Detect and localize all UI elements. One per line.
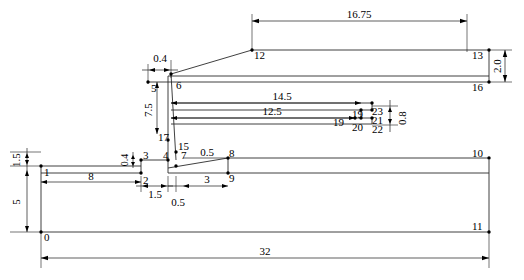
dimension-0-5-upper: 0.5 <box>183 146 228 158</box>
drawing-canvas: 16.75 2.0 0.4 7.5 14.5 12.5 <box>0 0 524 280</box>
vertex-label-0: 0 <box>44 231 50 243</box>
dimension-0-4-top: 0.4 <box>142 52 178 84</box>
dimension-16-75: 16.75 <box>252 8 467 52</box>
dimension-32: 32 <box>41 232 489 268</box>
dim-label-14-5: 14.5 <box>272 90 292 102</box>
dimension-1-5-lower: 1.5 <box>136 176 173 200</box>
part-outline <box>41 50 489 232</box>
vertex-label-16: 16 <box>472 81 484 93</box>
dim-label-2-0: 2.0 <box>491 59 503 73</box>
vertex-label-10: 10 <box>472 147 484 159</box>
vertex-label-15: 15 <box>178 140 190 152</box>
vertex-label-22: 22 <box>372 123 383 135</box>
dim-label-1-5-left: 1.5 <box>10 153 22 167</box>
vertex-label-13: 13 <box>472 49 484 61</box>
dim-label-0-4-top: 0.4 <box>153 52 167 64</box>
dim-label-0-8: 0.8 <box>396 111 408 125</box>
vertex-label-11: 11 <box>472 220 483 232</box>
dimension-12-5: 12.5 <box>171 105 355 120</box>
vertex-label-19: 19 <box>352 108 364 120</box>
dim-label-8-lower: 8 <box>88 170 94 182</box>
vertex-label-3: 3 <box>143 149 149 161</box>
dim-label-1-5-lower: 1.5 <box>148 188 162 200</box>
vertex-label-1: 1 <box>44 166 50 178</box>
dimension-14-5: 14.5 <box>171 90 361 105</box>
vertex-label-18: 19 <box>333 116 345 128</box>
dim-label-3-lower: 3 <box>204 173 210 185</box>
dimension-5-left: 5 <box>10 170 41 232</box>
vertex-label-8: 8 <box>229 147 235 159</box>
vertex-label-2: 2 <box>143 174 149 186</box>
dimension-3-lower: 3 <box>183 173 228 188</box>
dim-label-32: 32 <box>260 245 271 257</box>
vertex-labels: 0 1 2 3 4 5 6 7 8 9 10 11 12 13 15 16 17… <box>44 49 484 243</box>
dimension-0-5-lower: 0.5 <box>168 176 185 208</box>
dim-label-0-4-mid: 0.4 <box>119 154 130 167</box>
dimension-1-5-left: 1.5 <box>10 148 41 170</box>
vertex-label-4: 4 <box>163 149 169 161</box>
dim-label-0-5-upper: 0.5 <box>200 146 214 158</box>
vertex-label-9: 9 <box>229 172 235 184</box>
dimension-2-0: 2.0 <box>489 50 512 82</box>
vertex-label-5: 5 <box>151 82 157 94</box>
vertex-label-12: 12 <box>254 49 265 61</box>
vertex-label-23: 23 <box>372 105 384 117</box>
dimension-8-lower: 8 <box>41 170 141 184</box>
vertex-label-17: 17 <box>158 131 170 143</box>
dim-label-0-5-lower: 0.5 <box>171 196 185 208</box>
dim-label-5-left: 5 <box>10 199 22 205</box>
dim-label-16-75: 16.75 <box>347 8 372 20</box>
vertex-label-20: 20 <box>352 121 364 133</box>
dim-label-12-5: 12.5 <box>262 105 282 117</box>
dim-label-7-5: 7.5 <box>142 103 154 117</box>
vertex-label-6: 6 <box>176 79 182 91</box>
